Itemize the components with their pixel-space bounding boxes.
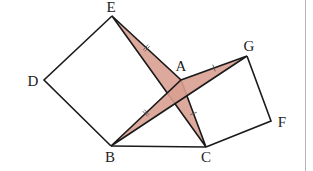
vertex-label-d: D	[28, 73, 39, 89]
vertex-label-b: B	[105, 149, 115, 165]
geometry-diagram: A B C D E F G	[0, 0, 313, 171]
vertex-label-e: E	[106, 0, 115, 15]
segment-bc	[111, 146, 206, 147]
square-abde-edges	[44, 16, 112, 146]
vertex-label-c: C	[201, 149, 211, 165]
vertex-label-g: G	[244, 38, 255, 54]
vertex-label-f: F	[278, 114, 286, 130]
vertex-label-a: A	[176, 58, 187, 74]
